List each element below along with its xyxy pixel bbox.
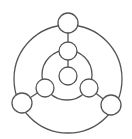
- node-inner-right: [80, 79, 98, 97]
- node-outer-left: [12, 93, 32, 113]
- node-outer-top: [58, 13, 78, 33]
- concentric-node-diagram: [0, 0, 132, 139]
- node-inner-left: [36, 79, 54, 97]
- node-outer-right: [101, 95, 121, 115]
- node-inner-top: [59, 42, 77, 60]
- node-center: [59, 67, 77, 85]
